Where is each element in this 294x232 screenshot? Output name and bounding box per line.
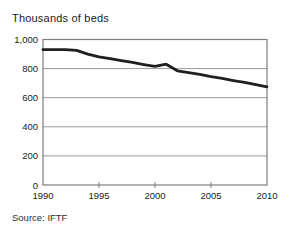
y-axis-tick-label: 400 [22,121,38,132]
source-caption: Source: IFTF [12,212,67,223]
y-axis-tick-label: 800 [22,63,38,74]
x-axis-tick-label: 2000 [144,190,165,201]
plot-frame [43,40,267,186]
x-axis-tick-label: 1995 [88,190,109,201]
x-axis-tick-label: 2005 [200,190,221,201]
y-axis-tick-label: 200 [22,150,38,161]
y-axis-tick-label: 600 [22,92,38,103]
x-axis-tick-label: 2010 [256,190,277,201]
x-axis-tick-label: 1990 [32,190,53,201]
y-axis-tick-label: 1,000 [14,34,38,45]
hospital-beds-chart-figure: Thousands of beds 02004006008001,0001990… [0,0,294,232]
line-chart-plot: 02004006008001,00019901995200020052010 [0,0,294,232]
y-axis-tick-label: 0 [33,180,38,191]
